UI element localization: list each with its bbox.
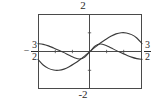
axis-label-x-min: − 3 2 [4,40,38,62]
fraction-three-halves: 3 2 [31,40,38,62]
minus-sign: − [24,46,30,56]
fraction-three-halves: 3 2 [144,40,151,62]
graph-figure: 2 -2 − 3 2 3 2 [0,0,166,104]
fraction-denominator: 2 [31,52,38,63]
fraction-numerator: 3 [31,40,38,51]
axis-label-y-max: 2 [0,0,166,11]
axis-label-x-max: 3 2 [144,40,166,62]
plot-canvas [38,14,142,89]
fraction-numerator: 3 [144,40,151,51]
fraction-denominator: 2 [144,52,151,63]
axis-label-y-min: -2 [0,89,166,100]
